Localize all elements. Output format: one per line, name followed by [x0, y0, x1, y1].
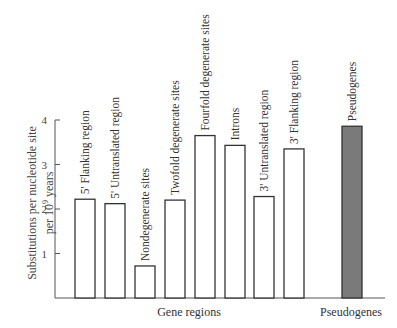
y-axis-label-tail: years	[42, 172, 56, 200]
bar	[254, 197, 274, 298]
bar-label: 3' Flanking region	[288, 60, 301, 144]
bar	[165, 200, 185, 298]
group-label-pseudogenes: Pseudogenes	[320, 305, 382, 319]
bar-label: 5' Untranslated region	[109, 97, 122, 199]
y-axis-label: Substitutions per nucleotide site per 10…	[26, 98, 56, 308]
group-labels: Gene regionsPseudogenes	[157, 305, 382, 319]
bar	[105, 204, 125, 298]
bar-label: 3' Untranslated region	[258, 90, 271, 192]
bar-label: Twofold degenerate sites	[169, 80, 182, 195]
bar-chart: 1234 5' Flanking region5' Untranslated r…	[0, 0, 397, 328]
bar	[75, 199, 95, 298]
bar-label: Nondegenerate sites	[139, 168, 152, 261]
y-axis-label-line2: per 10	[42, 204, 56, 234]
bar	[342, 126, 362, 298]
bar-label: Pseudogenes	[346, 61, 359, 121]
y-axis-label-line1: Substitutions per nucleotide site	[25, 126, 39, 280]
bar-label: Introns	[229, 107, 241, 140]
y-axis-label-sup: 9	[41, 200, 50, 204]
bar-label: Fourfold degenerate sites	[199, 14, 212, 131]
bar	[195, 136, 215, 298]
bar	[225, 145, 245, 298]
bar-label: 5' Flanking region	[79, 110, 92, 194]
bar	[135, 266, 155, 298]
group-label-gene-regions: Gene regions	[157, 305, 221, 319]
bar	[284, 149, 304, 298]
